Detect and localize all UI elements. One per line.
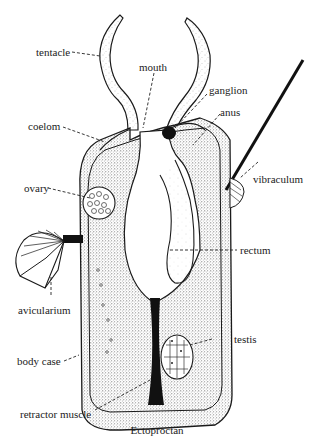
testis-shape xyxy=(161,335,193,379)
label-ganglion: ganglion xyxy=(209,84,248,96)
label-coelom: coelom xyxy=(28,120,60,132)
ganglion-shape xyxy=(162,127,176,140)
label-testis: testis xyxy=(234,333,257,345)
label-mouth: mouth xyxy=(139,61,167,73)
label-tentacle: tentacle xyxy=(36,46,70,58)
ectoproctan-diagram: tentacle mouth ganglion anus coelom vibr… xyxy=(0,0,314,439)
vibraculum-shape xyxy=(226,60,303,208)
label-ovary: ovary xyxy=(24,182,49,194)
ovary-shape xyxy=(83,187,115,219)
label-rectum: rectum xyxy=(240,244,271,256)
label-anus: anus xyxy=(220,106,240,118)
avicularium-shape xyxy=(16,230,83,288)
figure-caption: Ectoproctan xyxy=(0,424,314,436)
label-body-case: body case xyxy=(17,355,61,367)
label-retractor-muscle: retractor muscle xyxy=(20,408,91,420)
label-vibraculum: vibraculum xyxy=(253,173,303,185)
label-avicularium: avicularium xyxy=(18,304,71,316)
